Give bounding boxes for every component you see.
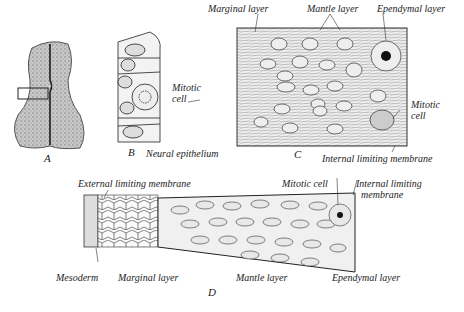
label-d-internal-limiting-membrane: Internal limiting xyxy=(356,178,422,189)
label-d-mitotic-cell: Mitotic cell xyxy=(282,178,328,189)
panel-a-neural-tube xyxy=(14,42,84,149)
panel-c-block xyxy=(237,28,407,146)
panel-letter-a: A xyxy=(44,152,51,164)
label-d-mantle-layer: Mantle layer xyxy=(236,272,287,283)
label-c-marginal-layer: Marginal layer xyxy=(208,3,268,14)
label-c-mantle-layer: Mantle layer xyxy=(307,3,358,14)
label-c-mitotic-cell-2: cell xyxy=(411,110,425,121)
label-b-mitotic-cell-2: cell xyxy=(172,93,186,104)
panel-letter-d: D xyxy=(208,286,216,298)
label-d-marginal-layer: Marginal layer xyxy=(118,272,178,283)
histology-figure: A B C D Mitotic cell Neural epithelium M… xyxy=(0,0,464,312)
panel-letter-c: C xyxy=(294,148,301,160)
label-d-internal-limiting-membrane-2: membrane xyxy=(361,189,403,200)
label-d-ependymal-layer: Ependymal layer xyxy=(332,272,400,283)
label-b-mitotic-cell: Mitotic xyxy=(172,82,201,93)
panel-letter-b: B xyxy=(128,146,135,158)
label-neural-epithelium: Neural epithelium xyxy=(146,148,219,159)
label-d-external-limiting-membrane: External limiting membrane xyxy=(78,178,191,189)
panel-d-block xyxy=(84,193,355,272)
label-c-mitotic-cell: Mitotic xyxy=(411,99,440,110)
label-c-internal-limiting-membrane: Internal limiting membrane xyxy=(322,153,433,164)
panel-b-epithelium xyxy=(118,32,160,142)
label-c-ependymal-layer: Ependymal layer xyxy=(377,3,445,14)
label-d-mesoderm: Mesoderm xyxy=(56,272,98,283)
